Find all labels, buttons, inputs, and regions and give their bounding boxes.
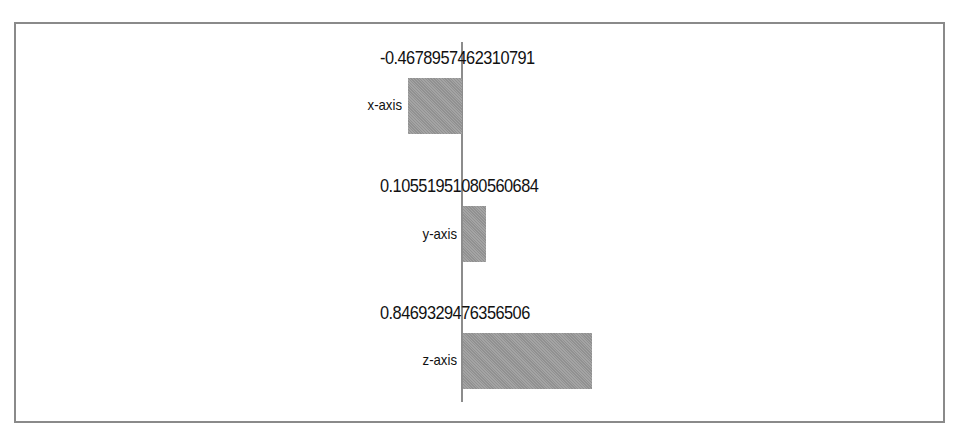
- category-label-z: z-axis: [387, 351, 457, 368]
- bar-y-axis: [463, 206, 486, 262]
- value-label-z: 0.8469329476356506: [380, 302, 530, 324]
- bar-x-axis: [408, 78, 462, 134]
- value-label-x: -0.4678957462310791: [380, 47, 535, 69]
- bar-z-axis: [463, 333, 592, 389]
- value-label-y: 0.10551951080560684: [380, 175, 538, 197]
- category-label-x: x-axis: [332, 96, 402, 113]
- category-label-y: y-axis: [387, 225, 457, 242]
